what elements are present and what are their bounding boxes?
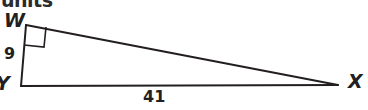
right-triangle-drawing [0,0,368,110]
vertex-label-w: W [4,11,25,30]
right-angle-marker [24,27,46,47]
geometry-figure: units W Y X 9 41 [0,0,368,110]
vertex-label-x: X [348,72,363,91]
side-wx-line [26,25,338,85]
side-length-label-wy: 9 [4,46,15,62]
vertex-label-y: Y [0,74,10,93]
side-yx-line [21,85,338,86]
side-length-label-yx: 41 [143,89,165,105]
side-wy-line [21,25,26,86]
